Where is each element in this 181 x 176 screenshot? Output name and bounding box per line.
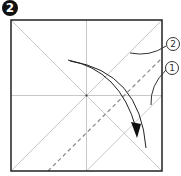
label-1: 1 (165, 61, 179, 75)
center-point (86, 95, 88, 97)
leader-line-1 (151, 70, 166, 105)
label-2: 2 (166, 37, 180, 51)
origami-diagram (0, 0, 181, 176)
arrowhead-icon (131, 122, 141, 138)
fold-arrow-outer (70, 61, 146, 148)
fold-arrow-inner (68, 60, 136, 128)
